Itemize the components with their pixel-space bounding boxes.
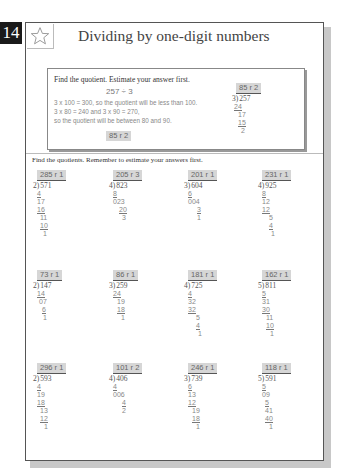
dividend: 925 xyxy=(264,180,276,190)
dividend: 593 xyxy=(39,373,51,383)
dividend: 591 xyxy=(264,373,276,383)
estimate-line-1: 3 x 100 = 300, so the quotient will be l… xyxy=(54,99,197,106)
example-equation: 257 ÷ 3 xyxy=(106,87,133,96)
work-step: 4 xyxy=(184,322,234,330)
divisor: 4 xyxy=(109,374,113,383)
work-step: 32 xyxy=(184,306,234,314)
division-problem: 205 r 34)8238023203 xyxy=(109,170,159,222)
division-problem: 246 r 13)7396131219181 xyxy=(184,363,234,431)
dividend: 823 xyxy=(115,180,127,190)
division-problem: 296 r 12)5934191813121 xyxy=(33,363,83,431)
work-step: 14 xyxy=(33,290,83,298)
divisor: 2 xyxy=(33,374,37,383)
divisor: 2 xyxy=(33,281,37,290)
division-setup: 2)571 xyxy=(33,181,83,190)
example-step: 24 xyxy=(232,103,282,111)
example-step: 15 xyxy=(232,119,282,127)
work-step: 10 xyxy=(33,222,83,230)
work-step: 24 xyxy=(109,290,159,298)
work-step: 09 xyxy=(258,391,308,399)
work-step: 4 xyxy=(33,190,83,198)
work-step: 18 xyxy=(184,415,234,423)
work-step: 16 xyxy=(33,206,83,214)
work-step: 32 xyxy=(184,298,234,306)
work-step: 5 xyxy=(258,214,308,222)
division-setup: 5)591 xyxy=(258,374,308,383)
work-step: 1 xyxy=(33,314,83,322)
work-step: 11 xyxy=(33,214,83,222)
division-problem: 118 r 15)591509541401 xyxy=(258,363,308,431)
work-step: 4 xyxy=(33,383,83,391)
division-problem: 285 r 12)5714171611101 xyxy=(33,170,83,238)
dividend: 739 xyxy=(190,373,202,383)
work-step: 4 xyxy=(109,399,159,407)
work-step: 19 xyxy=(109,298,159,306)
work-step: 41 xyxy=(258,407,308,415)
example-divisor: 3 xyxy=(232,94,236,103)
example-answer: 85 r 2 xyxy=(106,131,131,141)
division-problem: 101 r 24)406400642 xyxy=(109,363,159,415)
division-problem: 201 r 13)604600431 xyxy=(184,170,234,222)
division-problem: 162 r 15)8115313011101 xyxy=(258,270,308,338)
division-problem: 231 r 14)92581212541 xyxy=(258,170,308,238)
star-badge xyxy=(27,24,54,49)
work-step: 004 xyxy=(184,198,234,206)
work-step: 1 xyxy=(258,230,308,238)
work-step: 5 xyxy=(184,314,234,322)
division-setup: 2)147 xyxy=(33,281,83,290)
work-step: 1 xyxy=(258,423,308,431)
work-step: 10 xyxy=(258,322,308,330)
work-step: 3 xyxy=(184,206,234,214)
work-step: 1 xyxy=(33,230,83,238)
work-step: 5 xyxy=(258,383,308,391)
work-step: 6 xyxy=(184,383,234,391)
example-step: 2 xyxy=(232,127,282,135)
work-step: 40 xyxy=(258,415,308,423)
work-step: 13 xyxy=(184,391,234,399)
division-setup: 5)811 xyxy=(258,281,308,290)
divisor: 4 xyxy=(184,281,188,290)
divisor: 2 xyxy=(33,181,37,190)
work-step: 11 xyxy=(258,314,308,322)
work-step: 13 xyxy=(33,407,83,415)
division-setup: 3)604 xyxy=(184,181,234,190)
example-box: Find the quotient. Estimate your answer … xyxy=(47,68,305,150)
work-step: 17 xyxy=(33,198,83,206)
work-step: 31 xyxy=(258,298,308,306)
work-step: 4 xyxy=(109,383,159,391)
divisor: 3 xyxy=(184,181,188,190)
work-step: 5 xyxy=(258,290,308,298)
dividend: 259 xyxy=(115,280,127,290)
work-step: 3 xyxy=(109,214,159,222)
work-step: 6 xyxy=(184,190,234,198)
division-problem: 181 r 14)72543232541 xyxy=(184,270,234,338)
work-step: 19 xyxy=(184,407,234,415)
main-instruction: Find the quotients. Remember to estimate… xyxy=(32,156,203,164)
work-step: 1 xyxy=(184,330,234,338)
work-step: 8 xyxy=(109,190,159,198)
work-step: 20 xyxy=(109,206,159,214)
work-step: 12 xyxy=(258,198,308,206)
work-step: 1 xyxy=(258,330,308,338)
division-setup: 3)259 xyxy=(109,281,159,290)
division-setup: 2)593 xyxy=(33,374,83,383)
dividend: 147 xyxy=(39,280,51,290)
division-setup: 3)739 xyxy=(184,374,234,383)
estimate-line-3: so the quotient will be between 80 and 9… xyxy=(54,117,172,124)
work-step: 12 xyxy=(258,206,308,214)
page-number: 14 xyxy=(0,22,22,44)
work-step: 18 xyxy=(33,399,83,407)
work-step: 18 xyxy=(109,306,159,314)
work-step: 07 xyxy=(33,298,83,306)
dividend: 571 xyxy=(39,180,51,190)
divisor: 4 xyxy=(258,181,262,190)
star-icon xyxy=(30,26,50,46)
work-step: 1 xyxy=(33,423,83,431)
work-step: 1 xyxy=(184,214,234,222)
divisor: 5 xyxy=(258,281,262,290)
work-step: 19 xyxy=(33,391,83,399)
page-title: Dividing by one-digit numbers xyxy=(78,27,270,45)
work-step: 4 xyxy=(258,222,308,230)
work-step: 006 xyxy=(109,391,159,399)
work-step: 8 xyxy=(258,190,308,198)
